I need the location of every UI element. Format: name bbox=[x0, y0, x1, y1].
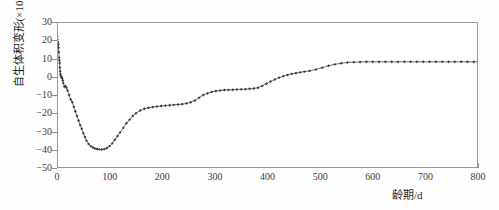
data-point-marker bbox=[314, 68, 317, 71]
data-point-marker bbox=[416, 60, 419, 63]
data-point-marker bbox=[143, 107, 146, 110]
data-point-marker bbox=[248, 87, 251, 90]
data-point-marker bbox=[58, 35, 59, 38]
data-point-marker bbox=[466, 60, 469, 63]
data-point-marker bbox=[98, 148, 101, 151]
data-point-marker bbox=[62, 82, 65, 85]
data-point-marker bbox=[286, 73, 289, 76]
data-point-marker bbox=[74, 110, 77, 113]
data-point-marker bbox=[384, 60, 387, 63]
data-point-marker bbox=[460, 60, 463, 63]
x-axis-tick-label: 200 bbox=[142, 172, 182, 182]
data-point-marker bbox=[210, 90, 213, 93]
data-point-marker bbox=[103, 148, 106, 151]
x-axis-tick-label: 0 bbox=[37, 172, 77, 182]
data-point-marker bbox=[359, 61, 362, 64]
data-point-marker bbox=[294, 72, 297, 75]
data-point-marker bbox=[236, 88, 239, 91]
data-point-marker bbox=[151, 106, 154, 109]
data-point-marker bbox=[472, 60, 475, 63]
data-point-marker bbox=[290, 72, 293, 75]
data-point-marker bbox=[273, 78, 276, 81]
data-point-marker bbox=[352, 61, 355, 64]
data-point-marker bbox=[58, 46, 60, 49]
data-point-marker bbox=[282, 75, 285, 78]
data-point-marker bbox=[181, 103, 184, 106]
data-point-marker bbox=[189, 101, 192, 104]
data-point-marker bbox=[409, 60, 412, 63]
x-axis-tick-label: 300 bbox=[195, 172, 235, 182]
data-point-marker bbox=[58, 59, 61, 62]
data-point-marker bbox=[434, 60, 437, 63]
data-point-marker bbox=[147, 106, 150, 109]
x-axis-tick-label: 400 bbox=[248, 172, 288, 182]
x-axis-tick-label: 700 bbox=[405, 172, 445, 182]
data-point-marker bbox=[333, 63, 336, 66]
data-point-marker bbox=[265, 82, 268, 85]
data-point-marker bbox=[346, 61, 349, 64]
data-point-marker bbox=[58, 66, 61, 69]
data-point-marker bbox=[441, 60, 444, 63]
data-point-marker bbox=[340, 62, 343, 65]
data-point-marker bbox=[66, 89, 69, 92]
data-point-marker bbox=[240, 88, 243, 91]
data-point-marker bbox=[59, 70, 62, 73]
data-series-canvas bbox=[58, 23, 477, 167]
x-axis-tick-mark bbox=[478, 163, 479, 168]
data-point-marker bbox=[185, 102, 188, 105]
data-point-marker bbox=[278, 76, 281, 79]
data-point-marker bbox=[58, 38, 59, 41]
chart-figure: 自生体积变形(×10-6) 3020100−10−20−30−40−50 010… bbox=[0, 0, 499, 210]
data-point-marker bbox=[227, 88, 230, 91]
data-point-marker bbox=[321, 66, 324, 69]
data-point-marker bbox=[327, 64, 330, 67]
data-point-marker bbox=[83, 136, 86, 139]
x-axis-tick-label: 100 bbox=[90, 172, 130, 182]
x-axis-tick-labels: 0100200300400500600700800 bbox=[0, 172, 499, 186]
data-point-marker bbox=[219, 89, 222, 92]
x-axis-tick-label: 600 bbox=[353, 172, 393, 182]
y-axis-tick-label: 20 bbox=[22, 35, 52, 45]
data-point-marker bbox=[453, 60, 456, 63]
data-point-marker bbox=[58, 62, 61, 65]
data-point-marker bbox=[58, 51, 60, 54]
data-point-marker bbox=[82, 132, 85, 135]
data-point-marker bbox=[422, 60, 425, 63]
data-point-marker bbox=[214, 90, 217, 93]
data-point-marker bbox=[269, 80, 272, 83]
data-point-marker bbox=[257, 86, 260, 89]
y-axis-tick-label: −10 bbox=[22, 90, 52, 100]
data-point-marker bbox=[168, 104, 171, 107]
data-point-marker bbox=[378, 60, 381, 63]
data-point-marker bbox=[100, 148, 103, 151]
plot-area bbox=[57, 22, 478, 168]
data-point-marker bbox=[72, 105, 75, 108]
data-point-marker bbox=[79, 124, 82, 127]
y-axis-tick-mark bbox=[52, 168, 57, 169]
x-axis-tick-label: 800 bbox=[458, 172, 498, 182]
data-point-marker bbox=[156, 105, 159, 108]
data-point-marker bbox=[223, 89, 226, 92]
data-point-marker bbox=[172, 103, 175, 106]
data-point-marker bbox=[206, 92, 209, 95]
data-point-marker bbox=[177, 103, 180, 106]
data-point-marker bbox=[261, 84, 264, 87]
data-point-marker bbox=[160, 105, 163, 108]
data-point-marker bbox=[252, 87, 255, 90]
data-point-marker bbox=[231, 88, 234, 91]
x-axis-tick-label: 500 bbox=[300, 172, 340, 182]
data-point-marker bbox=[428, 60, 431, 63]
data-point-marker bbox=[76, 115, 79, 118]
y-axis-tick-label: −20 bbox=[22, 108, 52, 118]
data-point-marker bbox=[80, 127, 83, 130]
data-point-marker bbox=[308, 69, 311, 72]
data-point-marker bbox=[390, 60, 393, 63]
y-axis-tick-label: −40 bbox=[22, 145, 52, 155]
y-axis-tick-label: 10 bbox=[22, 54, 52, 64]
y-axis-tick-label: 0 bbox=[22, 72, 52, 82]
y-axis-tick-label: −30 bbox=[22, 127, 52, 137]
y-axis-tick-label: 30 bbox=[22, 17, 52, 27]
data-point-marker bbox=[365, 60, 368, 63]
data-point-marker bbox=[77, 119, 80, 122]
data-point-marker bbox=[397, 60, 400, 63]
